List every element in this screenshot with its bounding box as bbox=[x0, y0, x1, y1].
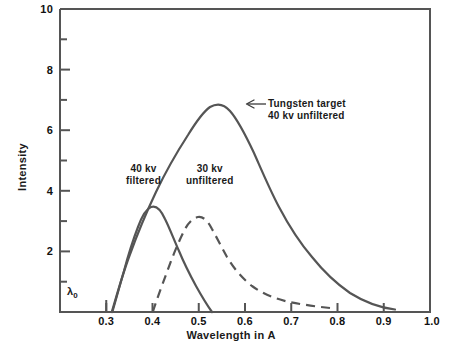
curve-40kv-filtered bbox=[112, 207, 212, 312]
y-axis-title: Intensity bbox=[16, 127, 28, 207]
y-tick-label-0: 2 bbox=[28, 245, 53, 257]
x-tick-label-7: 1.0 bbox=[424, 315, 440, 327]
annotation-30kv-line1: 30 kv bbox=[186, 163, 234, 175]
x-major-ticks bbox=[106, 303, 384, 312]
y-tick-label-3: 8 bbox=[28, 64, 53, 76]
annotation-tungsten-target: Tungsten target 40 kv unfiltered bbox=[268, 98, 346, 122]
x-tick-label-2: 0.5 bbox=[191, 315, 207, 327]
annotation-40kv-line1: 40 kv bbox=[126, 163, 161, 175]
y-tick-label-2: 6 bbox=[28, 124, 53, 136]
annotation-40kv-line2: filtered bbox=[126, 175, 161, 187]
y-tick-label-4: 10 bbox=[23, 3, 53, 15]
x-tick-label-5: 0.8 bbox=[330, 315, 346, 327]
y-minor-ticks bbox=[60, 39, 67, 281]
x-tick-label-1: 0.4 bbox=[145, 315, 161, 327]
curve-tungsten-40kv-unfiltered bbox=[112, 105, 395, 312]
tungsten-leader-line bbox=[247, 100, 267, 108]
x-tick-label-6: 0.9 bbox=[376, 315, 392, 327]
annotation-tungsten-line1: Tungsten target bbox=[268, 98, 346, 110]
xray-spectrum-chart: 0.3 0.4 0.5 0.6 0.7 0.8 0.9 1.0 2 4 6 8 … bbox=[0, 0, 460, 346]
x-tick-label-3: 0.6 bbox=[237, 315, 253, 327]
curve-30kv-unfiltered bbox=[153, 217, 335, 312]
y-tick-label-1: 4 bbox=[28, 185, 53, 197]
x-tick-label-4: 0.7 bbox=[283, 315, 299, 327]
x-tick-label-0: 0.3 bbox=[98, 315, 114, 327]
axis-frame bbox=[60, 9, 430, 312]
x-axis-title: Wavelength in A bbox=[186, 329, 275, 341]
lambda-subscript: 0 bbox=[73, 291, 77, 300]
annotation-30kv-unfiltered: 30 kv unfiltered bbox=[186, 163, 234, 187]
annotation-30kv-line2: unfiltered bbox=[186, 175, 234, 187]
annotation-40kv-filtered: 40 kv filtered bbox=[126, 163, 161, 187]
lambda-zero-label: λ0 bbox=[67, 285, 78, 300]
annotation-tungsten-line2: 40 kv unfiltered bbox=[268, 110, 346, 122]
